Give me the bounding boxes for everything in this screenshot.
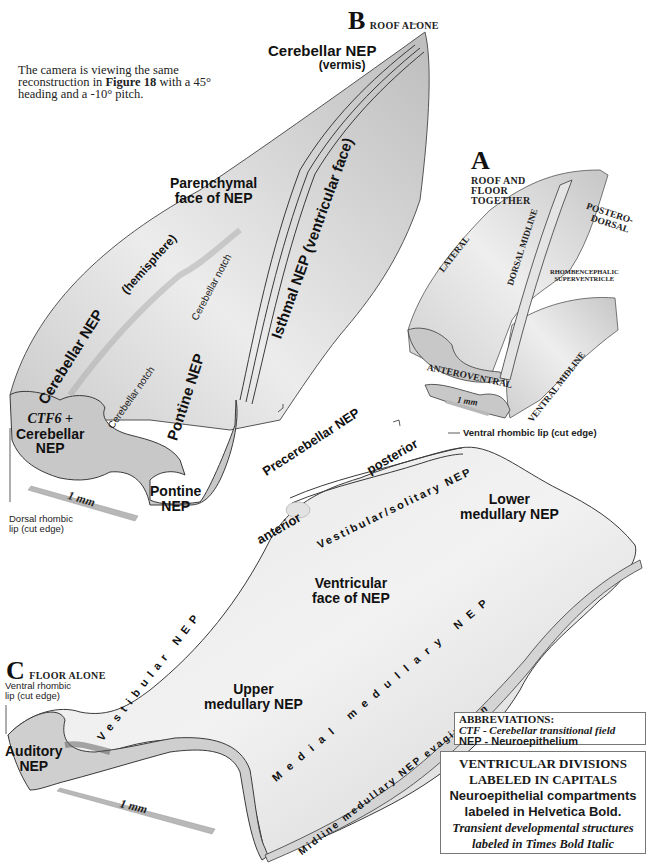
label-a-rhombencephalic-superventricle: RHOMBENCEPHALIC SUPERVENTRICLE — [550, 268, 619, 282]
label-cerebellar-vermis: Cerebellar NEP (vermis) — [268, 43, 376, 71]
panel-b-heading: B ROOF ALONE — [348, 6, 439, 36]
label-pontine-nep-cut: Pontine NEP — [150, 484, 201, 513]
legend-line: labeled in Times Bold Italic — [441, 836, 645, 852]
label-ventricular-face: Ventricular face of NEP — [312, 576, 390, 605]
panel-a-letter: A — [471, 146, 530, 176]
label-ventral-rhombic-lip: Ventral rhombic lip (cut edge) — [5, 681, 71, 702]
legend-line: VENTRICULAR DIVISIONS — [441, 756, 645, 772]
label-ventral-rhombic-lip-top: Ventral rhombic lip (cut edge) — [463, 428, 597, 438]
panel-b-title: ROOF ALONE — [370, 20, 439, 31]
panel-a-title: ROOF AND FLOOR TOGETHER — [471, 176, 530, 206]
label-auditory-nep: Auditory NEP — [5, 744, 63, 773]
label-parenchymal-face: Parenchymal face of NEP — [170, 176, 257, 205]
label-ctf6-cerebellar: CTF6 + Cerebellar NEP — [16, 412, 84, 456]
label-dorsal-rhombic-lip: Dorsal rhombic lip (cut edge) — [9, 514, 73, 535]
legend-line: LABELED IN CAPITALS — [441, 772, 645, 788]
legend-line: labeled in Helvetica Bold. — [441, 804, 645, 820]
legend-line: Neuroepithelial compartments — [441, 788, 645, 804]
label-upper-medullary-nep: Upper medullary NEP — [204, 682, 303, 711]
panel-a-heading: A ROOF AND FLOOR TOGETHER — [471, 146, 530, 206]
label-lower-medullary-nep: Lower medullary NEP — [460, 492, 559, 521]
legend-line: Transient developmental structures — [441, 820, 645, 836]
abbreviation-nep: NEP - Neuroepithelium — [459, 736, 645, 747]
figure-caption: The camera is viewing the same reconstru… — [18, 64, 228, 100]
abbreviations-box: ABBREVIATIONS: CTF - Cerebellar transiti… — [454, 712, 646, 745]
label-conventions-legend: VENTRICULAR DIVISIONS LABELED IN CAPITAL… — [440, 751, 646, 854]
panel-b-letter: B — [348, 6, 365, 35]
